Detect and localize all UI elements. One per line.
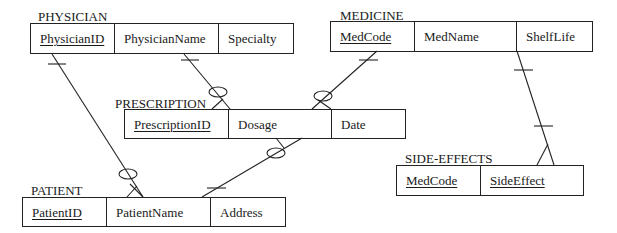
attr-patient-id: PatientID	[23, 198, 107, 226]
attr-specialty: Specialty	[219, 24, 293, 53]
entity-patient: PatientID PatientName Address	[22, 197, 286, 227]
crowfoot-icon	[276, 138, 284, 148]
entity-physician: PhysicianID PhysicianName Specialty	[30, 23, 294, 54]
attr-dosage: Dosage	[229, 110, 332, 138]
entity-medicine: MedCode MedName ShelfLife	[330, 21, 593, 52]
attr-se-medcode: MedCode	[397, 166, 481, 195]
crowfoot-icon	[537, 144, 548, 165]
attr-prescription-id: PrescriptionID	[125, 110, 229, 138]
entity-title-physician: PHYSICIAN	[38, 10, 107, 23]
rel-medicine-prescription	[312, 51, 378, 109]
crowfoot-icon	[212, 99, 223, 109]
attr-medname: MedName	[415, 22, 517, 51]
attr-shelflife: ShelfLife	[517, 22, 592, 51]
entity-prescription: PrescriptionID Dosage Date	[124, 109, 406, 139]
entity-side-effects: MedCode SideEffect	[396, 165, 584, 196]
er-diagram: PHYSICIAN PhysicianID PhysicianName Spec…	[0, 0, 617, 233]
entity-title-side-effects: SIDE-EFFECTS	[405, 152, 492, 165]
entity-title-patient: PATIENT	[31, 184, 83, 197]
attr-patient-name: PatientName	[107, 198, 211, 226]
attr-side-effect: SideEffect	[481, 166, 583, 195]
attr-date: Date	[332, 110, 405, 138]
rel-patient-prescription	[202, 138, 302, 197]
attr-physician-name: PhysicianName	[115, 24, 219, 53]
crowfoot-icon	[127, 186, 137, 197]
attr-medcode: MedCode	[331, 22, 415, 51]
attr-address: Address	[211, 198, 285, 226]
attr-physician-id: PhysicianID	[31, 24, 115, 53]
rel-medicine-sideeffects	[514, 51, 554, 165]
